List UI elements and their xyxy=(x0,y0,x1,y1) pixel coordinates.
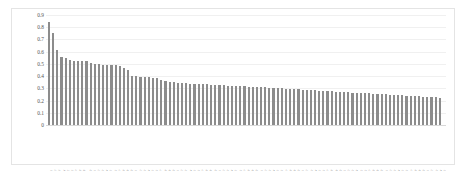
bar xyxy=(123,68,125,125)
bar xyxy=(77,61,79,125)
bar xyxy=(198,84,200,125)
bar xyxy=(418,96,420,125)
chart-figure: Bad <- Mean(RusSTDEV) -> Good 00.10.20.3… xyxy=(0,0,466,171)
x-axis-tick-label: C9 xyxy=(82,169,87,171)
bar xyxy=(181,83,183,125)
bar xyxy=(135,76,137,125)
bar xyxy=(351,93,353,126)
bar xyxy=(335,92,337,125)
bar xyxy=(115,65,117,125)
bar xyxy=(260,87,262,125)
y-axis-tick-label: 0.7 xyxy=(37,36,44,42)
bar xyxy=(73,61,75,125)
bar xyxy=(314,90,316,125)
bar xyxy=(289,89,291,125)
bar xyxy=(389,95,391,125)
bar xyxy=(439,98,441,125)
bar xyxy=(364,93,366,125)
bar xyxy=(422,97,424,125)
y-axis-tick-label: 0.5 xyxy=(37,61,44,67)
bar xyxy=(69,60,71,125)
bar xyxy=(272,88,274,125)
bar xyxy=(65,58,67,125)
bar xyxy=(293,89,295,125)
bar xyxy=(231,86,233,125)
bar xyxy=(385,94,387,125)
bar xyxy=(189,84,191,125)
bar xyxy=(85,61,87,125)
bar xyxy=(435,97,437,125)
bar xyxy=(206,84,208,125)
bar xyxy=(193,84,195,125)
bar xyxy=(144,77,146,125)
bar xyxy=(60,57,62,125)
x-axis-tick-labels: C1C2C3C4C5C6C7C8C9C10C11C12C13C14C15C16C… xyxy=(48,127,446,171)
bar xyxy=(102,65,104,126)
bar xyxy=(264,87,266,125)
bar xyxy=(164,81,166,125)
bar xyxy=(381,94,383,125)
y-axis-tick-label: 0.9 xyxy=(37,12,44,18)
bar xyxy=(343,92,345,125)
bar xyxy=(268,88,270,125)
bar xyxy=(326,91,328,125)
bar xyxy=(127,70,129,125)
bar xyxy=(227,86,229,125)
bar xyxy=(81,61,83,125)
bar xyxy=(239,86,241,125)
bar xyxy=(173,82,175,125)
bar xyxy=(223,85,225,125)
bar xyxy=(210,85,212,125)
y-axis-tick-label: 0 xyxy=(41,122,44,128)
bar xyxy=(235,86,237,125)
bar xyxy=(185,83,187,125)
bar xyxy=(252,87,254,125)
bar xyxy=(52,33,54,125)
bar xyxy=(322,91,324,125)
bar xyxy=(302,90,304,125)
bar xyxy=(331,91,333,125)
bar xyxy=(110,65,112,125)
plot-area: 00.10.20.30.40.50.60.70.80.9 xyxy=(46,15,446,125)
bar xyxy=(156,78,158,125)
bar xyxy=(360,93,362,125)
bar xyxy=(347,92,349,125)
bar xyxy=(376,94,378,125)
bar xyxy=(281,88,283,125)
bar xyxy=(94,64,96,125)
bar xyxy=(285,89,287,125)
bar xyxy=(131,76,133,125)
bar xyxy=(414,96,416,125)
bar xyxy=(306,90,308,125)
bar xyxy=(356,93,358,125)
bar xyxy=(48,22,50,125)
bar xyxy=(401,95,403,125)
bar xyxy=(119,66,121,125)
bar xyxy=(106,65,108,125)
bar xyxy=(256,87,258,125)
y-axis-tick-label: 0.2 xyxy=(37,98,44,104)
bar xyxy=(202,84,204,125)
bar xyxy=(430,97,432,125)
bar xyxy=(214,85,216,125)
bar xyxy=(397,95,399,125)
figure-frame: Bad <- Mean(RusSTDEV) -> Good 00.10.20.3… xyxy=(11,8,455,165)
x-axis-tick-label: C95 xyxy=(441,169,446,171)
bar xyxy=(372,94,374,125)
bar xyxy=(426,97,428,125)
y-axis-tick-label: 0.1 xyxy=(37,110,44,116)
bar xyxy=(139,77,141,125)
bar xyxy=(339,92,341,125)
bar xyxy=(243,86,245,125)
bar xyxy=(56,50,58,125)
bar xyxy=(218,85,220,125)
bar xyxy=(297,89,299,125)
bar xyxy=(90,63,92,125)
y-axis-tick-label: 0.8 xyxy=(37,24,44,30)
bar xyxy=(177,83,179,125)
bar xyxy=(318,91,320,125)
y-axis-tick-label: 0.4 xyxy=(37,73,44,79)
bar xyxy=(169,82,171,125)
bar xyxy=(405,96,407,125)
bar xyxy=(410,96,412,125)
